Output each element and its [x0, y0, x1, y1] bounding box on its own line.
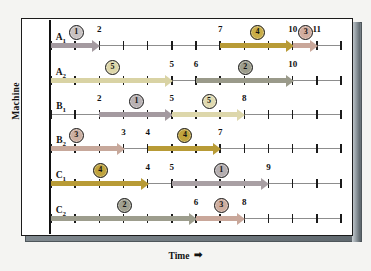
time-tick-label: 7	[213, 127, 227, 137]
time-tick-label: 7	[213, 24, 227, 34]
job-number-badge: 1	[129, 94, 144, 109]
machine-row-a2: A2552610	[22, 58, 354, 92]
tick-mark	[195, 41, 196, 50]
y-axis-title: Machine	[11, 71, 21, 131]
tick-mark	[123, 41, 124, 50]
tick-mark	[292, 214, 293, 223]
tick-mark	[316, 179, 317, 188]
time-tick-label: 4	[141, 127, 155, 137]
task-bar-job-1	[172, 181, 263, 186]
task-bar-arrowhead	[165, 75, 173, 87]
job-number-badge: 3	[214, 198, 229, 213]
time-tick-label: 6	[189, 197, 203, 207]
task-bar-arrowhead	[237, 213, 245, 225]
time-tick-label: 6	[189, 59, 203, 69]
tick-mark	[74, 110, 75, 119]
time-tick-label: 2	[92, 24, 106, 34]
tick-mark	[316, 214, 317, 223]
time-tick-label: 5	[165, 59, 179, 69]
task-bar-arrowhead	[310, 40, 318, 52]
tick-mark	[292, 144, 293, 153]
tick-mark	[316, 110, 317, 119]
tick-mark	[268, 110, 269, 119]
task-bar-arrowhead	[237, 109, 245, 121]
tick-mark	[244, 144, 245, 153]
tick-mark	[268, 214, 269, 223]
job-number-badge: 1	[214, 163, 229, 178]
tick-mark	[340, 110, 341, 119]
tick-mark	[292, 179, 293, 188]
task-bar-job-5	[172, 112, 239, 117]
tick-mark	[340, 41, 341, 50]
tick-mark	[340, 179, 341, 188]
job-number-badge: 4	[250, 25, 265, 40]
tick-mark	[340, 214, 341, 223]
time-tick-label: 8	[237, 93, 251, 103]
machine-label-b1: B1	[42, 101, 66, 114]
time-tick-label: 11	[310, 24, 324, 34]
time-tick-label: 2	[92, 93, 106, 103]
task-bar-job-3	[293, 43, 311, 48]
machine-row-b1: B112558	[22, 92, 354, 126]
tick-mark	[292, 110, 293, 119]
machine-row-c2: C22638	[22, 196, 354, 230]
job-number-badge: 5	[105, 60, 120, 75]
time-tick-label: 10	[286, 59, 300, 69]
tick-mark	[316, 144, 317, 153]
job-number-badge: 4	[177, 128, 192, 143]
time-tick-label: 5	[165, 162, 179, 172]
gantt-chart-figure: A1124710311A2552610B112558B233447C144159…	[0, 0, 371, 271]
tick-mark	[147, 41, 148, 50]
x-axis-arrow-icon: ➡	[194, 249, 202, 260]
task-bar-arrowhead	[117, 143, 125, 155]
job-number-badge: 3	[69, 128, 84, 143]
task-bar-job-5	[51, 78, 166, 83]
job-number-badge: 1	[69, 25, 84, 40]
tick-mark	[340, 76, 341, 85]
task-bar-job-2	[51, 216, 190, 221]
x-axis-title-wrap: Time➡	[0, 250, 371, 261]
task-bar-job-3	[51, 146, 118, 151]
task-bar-job-1	[99, 112, 166, 117]
time-tick-label: 9	[262, 162, 276, 172]
x-axis-title: Time	[169, 251, 190, 261]
task-bar-job-4	[220, 43, 287, 48]
task-bar-arrowhead	[141, 178, 149, 190]
job-number-badge: 2	[238, 60, 253, 75]
time-tick-label: 4	[141, 162, 155, 172]
task-bar-job-3	[196, 216, 238, 221]
machine-row-a1: A1124710311	[22, 23, 354, 57]
task-bar-job-2	[196, 78, 287, 83]
time-tick-label: 8	[237, 197, 251, 207]
task-bar-job-4	[51, 181, 142, 186]
job-number-badge: 4	[93, 163, 108, 178]
task-bar-arrowhead	[286, 75, 294, 87]
tick-mark	[340, 144, 341, 153]
tick-mark	[50, 110, 51, 119]
machine-row-b2: B233447	[22, 126, 354, 160]
time-tick-label: 3	[117, 127, 131, 137]
task-bar-job-1	[51, 43, 93, 48]
task-bar-arrowhead	[213, 143, 221, 155]
task-bar-arrowhead	[261, 178, 269, 190]
machine-row-c1: C144159	[22, 161, 354, 195]
task-bar-job-4	[148, 146, 215, 151]
tick-mark	[268, 144, 269, 153]
tick-mark	[316, 76, 317, 85]
tick-mark	[171, 41, 172, 50]
plot-area: A1124710311A2552610B112558B233447C144159…	[21, 18, 353, 236]
task-bar-arrowhead	[92, 40, 100, 52]
time-tick-label: 5	[165, 93, 179, 103]
job-number-badge: 2	[117, 198, 132, 213]
job-number-badge: 5	[202, 94, 217, 109]
